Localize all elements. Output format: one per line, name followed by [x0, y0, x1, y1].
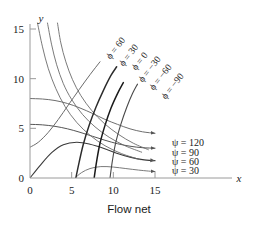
x-tick-label: 5 — [69, 184, 75, 196]
y-axis-label: y — [38, 12, 44, 24]
x-tick-label: 15 — [150, 184, 162, 196]
flow-net-plot: 051015051015 x y ψ = 120ψ = 90ψ = 60ψ = … — [0, 0, 258, 226]
streamline-curve — [75, 167, 155, 178]
figure-caption: Flow net — [0, 203, 258, 215]
y-tick-label: 0 — [19, 172, 25, 184]
streamline-curve — [30, 142, 155, 178]
x-tick-label: 10 — [108, 184, 120, 196]
flow-net-figure: 051015051015 x y ψ = 120ψ = 90ψ = 60ψ = … — [0, 0, 258, 226]
x-tick-label: 0 — [27, 184, 33, 196]
x-axis-label: x — [236, 172, 242, 184]
streamline-legend-label: ψ = 30 — [172, 165, 199, 176]
streamline-legend: ψ = 120ψ = 90ψ = 60ψ = 30 — [172, 137, 204, 176]
y-tick-label: 10 — [13, 73, 25, 85]
equipotential-curve — [48, 23, 142, 152]
y-tick-label: 15 — [13, 23, 25, 35]
y-tick-label: 5 — [19, 122, 25, 134]
